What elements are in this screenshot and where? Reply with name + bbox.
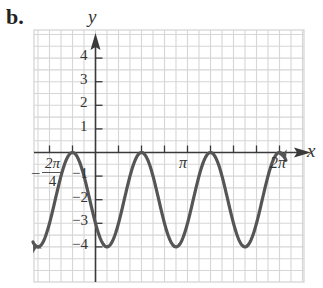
y-tick-label-4: 4 — [80, 47, 88, 64]
y-tick-label-neg1: −1 — [72, 165, 88, 182]
y-tick-label-3: 3 — [80, 71, 88, 88]
sinusoid-chart — [0, 0, 323, 288]
fraction-numerator: 2π — [42, 155, 63, 173]
y-tick-label-neg2: −2 — [72, 189, 88, 206]
x-tick-label-2pi: 2π — [270, 154, 286, 172]
minus-sign: – — [32, 164, 40, 181]
y-tick-label-neg3: −3 — [72, 212, 88, 229]
y-tick-label-1: 1 — [80, 118, 88, 135]
x-tick-label-neg-2pi-over-4: – 2π 4 — [34, 155, 63, 190]
x-axis-label: x — [307, 140, 315, 162]
y-axis-label: y — [88, 6, 96, 28]
y-tick-label-neg4: −4 — [72, 236, 88, 253]
y-tick-label-2: 2 — [80, 94, 88, 111]
fraction-denominator: 4 — [42, 173, 63, 190]
x-tick-label-pi: π — [179, 154, 187, 172]
